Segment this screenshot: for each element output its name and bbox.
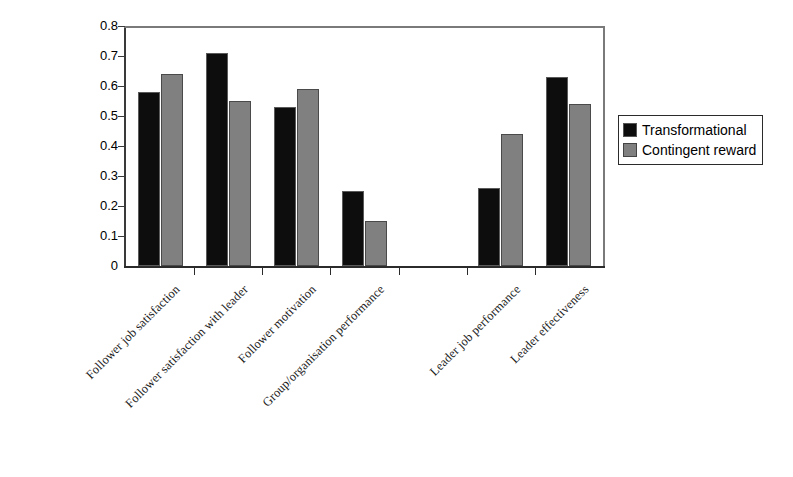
legend-swatch-icon: [623, 143, 637, 157]
y-axis-tick-label: 0.5: [86, 109, 118, 122]
x-axis-category-label: Leader job performance: [147, 282, 524, 477]
plot-area: [126, 26, 603, 266]
bar: [478, 188, 500, 266]
bar: [546, 77, 568, 266]
bar: [229, 101, 251, 266]
bar: [342, 191, 364, 266]
bar: [569, 104, 591, 266]
x-axis-category-label: Follower job satisfaction: [47, 282, 184, 419]
bar: [206, 53, 228, 266]
y-axis-tick-mark: [118, 146, 125, 147]
y-axis-tick-mark: [118, 56, 125, 57]
y-axis-tick-label: 0.6: [86, 79, 118, 92]
y-axis-tick-labels: 00.10.20.30.40.50.60.70.8: [86, 18, 118, 274]
y-axis-tick-mark: [118, 176, 125, 177]
y-axis-tick-mark: [118, 26, 125, 27]
x-axis-tick-mark: [194, 268, 195, 275]
y-axis-tick-label: 0.7: [86, 49, 118, 62]
bar: [138, 92, 160, 266]
x-axis-category-labels: Follower job satisfactionFollower satisf…: [0, 266, 793, 416]
y-axis-tick-mark: [118, 206, 125, 207]
x-axis-tick-mark: [399, 268, 400, 275]
bar: [161, 74, 183, 266]
y-axis-tick-label: 0.4: [86, 139, 118, 152]
y-axis-tick-mark: [118, 86, 125, 87]
bar: [274, 107, 296, 266]
y-axis-tick-label: 0.8: [86, 19, 118, 32]
legend-item-transformational: Transformational: [623, 120, 756, 140]
bar-chart: 00.10.20.30.40.50.60.70.8 Follower job s…: [0, 0, 793, 477]
y-axis-tick-label: 0.3: [86, 169, 118, 182]
x-axis-tick-mark: [535, 268, 536, 275]
legend-item-contingent-reward: Contingent reward: [623, 140, 756, 160]
x-axis-tick-mark: [330, 268, 331, 275]
y-axis-tick-mark: [118, 236, 125, 237]
bar: [365, 221, 387, 266]
legend-label: Transformational: [642, 123, 747, 137]
bar: [297, 89, 319, 266]
y-axis-tick-label: 0.1: [86, 229, 118, 242]
legend-label: Contingent reward: [642, 143, 756, 157]
bar: [501, 134, 523, 266]
legend-swatch-icon: [623, 123, 637, 137]
y-axis-tick-mark: [118, 116, 125, 117]
x-axis-tick-mark: [262, 268, 263, 275]
y-axis-tick-label: 0.2: [86, 199, 118, 212]
plot-frame-right-border: [603, 26, 605, 267]
x-axis-tick-mark: [467, 268, 468, 275]
chart-legend: Transformational Contingent reward: [618, 115, 763, 165]
